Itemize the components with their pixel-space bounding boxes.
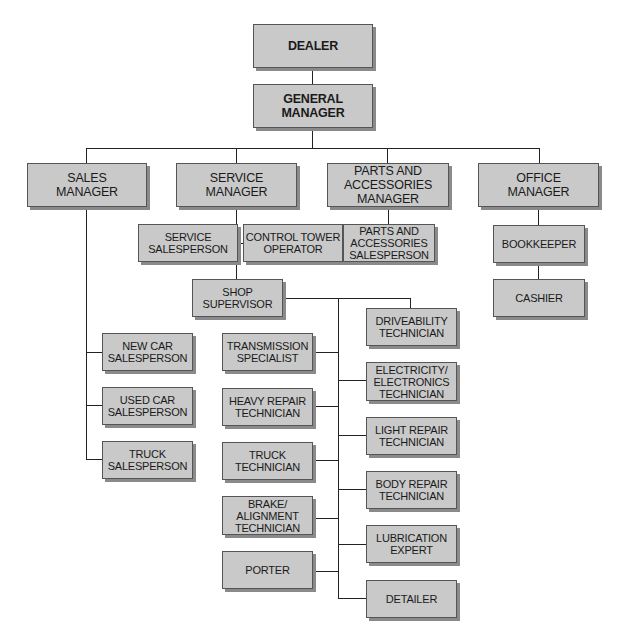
node-service-salesperson: SERVICE SALESPERSON	[138, 224, 238, 262]
node-lubrication-expert: LUBRICATION EXPERT	[366, 525, 457, 563]
connector-line	[86, 405, 102, 406]
node-truck-technician: TRUCK TECHNICIAN	[222, 442, 313, 480]
connector-line	[312, 352, 338, 353]
connector-line	[388, 206, 389, 224]
node-new-car-salesperson: NEW CAR SALESPERSON	[102, 333, 193, 371]
connector-line	[312, 67, 313, 84]
connector-line	[312, 128, 313, 148]
node-driveability-technician: DRIVEABILITY TECHNICIAN	[366, 308, 457, 346]
node-detailer: DETAILER	[366, 580, 457, 618]
connector-line	[86, 459, 102, 460]
connector-line	[312, 571, 338, 572]
connector-line	[539, 148, 540, 163]
node-electricity-electronics-technician: ELECTRICITY/ ELECTRONICS TECHNICIAN	[366, 362, 457, 401]
node-porter: PORTER	[222, 551, 313, 589]
connector-line	[86, 148, 540, 149]
node-heavy-repair-technician: HEAVY REPAIR TECHNICIAN	[222, 388, 313, 426]
node-truck-salesperson: TRUCK SALESPERSON	[102, 441, 193, 479]
node-used-car-salesperson: USED CAR SALESPERSON	[102, 387, 193, 425]
org-chart: DEALER GENERAL MANAGER SALES MANAGER SER…	[0, 0, 621, 637]
node-light-repair-technician: LIGHT REPAIR TECHNICIAN	[366, 417, 457, 455]
connector-line	[312, 406, 338, 407]
node-parts-salesperson: PARTS AND ACCESSORIES SALESPERSON	[343, 224, 435, 262]
connector-line	[338, 435, 366, 436]
connector-line	[236, 148, 237, 163]
connector-line	[282, 298, 410, 299]
node-transmission-specialist: TRANSMISSION SPECIALIST	[222, 333, 313, 371]
node-body-repair-technician: BODY REPAIR TECHNICIAN	[366, 471, 457, 509]
connector-line	[338, 298, 339, 599]
node-cashier: CASHIER	[493, 279, 585, 317]
node-bookkeeper: BOOKKEEPER	[493, 225, 585, 263]
node-dealer: DEALER	[253, 24, 373, 68]
connector-line	[538, 207, 539, 225]
node-control-tower-operator: CONTROL TOWER OPERATOR	[243, 224, 343, 262]
node-parts-manager: PARTS AND ACCESSORIES MANAGER	[327, 163, 449, 207]
node-office-manager: OFFICE MANAGER	[478, 163, 599, 207]
connector-line	[338, 380, 366, 381]
connector-line	[86, 206, 87, 460]
connector-line	[410, 298, 411, 308]
node-sales-manager: SALES MANAGER	[27, 163, 147, 207]
connector-line	[338, 598, 366, 599]
connector-line	[312, 518, 338, 519]
connector-line	[387, 148, 388, 163]
node-service-manager: SERVICE MANAGER	[176, 163, 297, 207]
node-general-manager: GENERAL MANAGER	[253, 84, 373, 128]
connector-line	[338, 489, 366, 490]
node-shop-supervisor: SHOP SUPERVISOR	[192, 279, 283, 317]
connector-line	[338, 544, 366, 545]
node-brake-alignment-technician: BRAKE/ ALIGNMENT TECHNICIAN	[222, 496, 313, 535]
connector-line	[538, 262, 539, 279]
connector-line	[86, 352, 102, 353]
connector-line	[86, 148, 87, 163]
connector-line	[312, 460, 338, 461]
